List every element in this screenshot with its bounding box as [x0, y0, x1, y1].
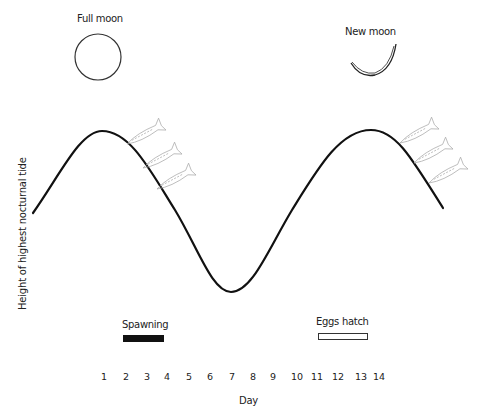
day-tick: 9	[270, 371, 276, 382]
day-tick: 3	[144, 371, 150, 382]
day-tick: 10	[291, 371, 303, 382]
day-tick: 5	[186, 371, 192, 382]
day-tick: 4	[164, 371, 170, 382]
day-tick: 12	[332, 371, 344, 382]
tide-curve	[33, 130, 443, 292]
fish-icon	[396, 117, 439, 149]
day-tick: 14	[373, 371, 385, 382]
tide-diagram	[0, 0, 481, 418]
fish-icon	[410, 137, 453, 169]
full-moon-label: Full moon	[77, 13, 123, 24]
full-moon-icon	[75, 34, 121, 80]
day-tick: 2	[123, 371, 129, 382]
new-moon-label: New moon	[345, 26, 396, 37]
spawning-bar	[123, 335, 164, 342]
day-tick: 6	[207, 371, 213, 382]
day-tick: 7	[229, 371, 235, 382]
fish-icon	[139, 142, 182, 174]
fish-icon	[425, 157, 468, 189]
day-tick: 8	[250, 371, 256, 382]
eggs-hatch-label: Eggs hatch	[316, 316, 369, 327]
fish-icon	[153, 163, 196, 195]
x-axis-label: Day	[239, 395, 258, 406]
new-moon-icon	[351, 44, 396, 76]
y-axis-label: Height of highest nocturnal tide	[17, 157, 28, 310]
fish-group-spawning	[123, 118, 196, 195]
spawning-label: Spawning	[122, 319, 168, 330]
day-tick: 1	[101, 371, 107, 382]
eggs-hatch-bar	[319, 334, 368, 340]
day-tick: 11	[311, 371, 323, 382]
day-tick: 13	[355, 371, 367, 382]
